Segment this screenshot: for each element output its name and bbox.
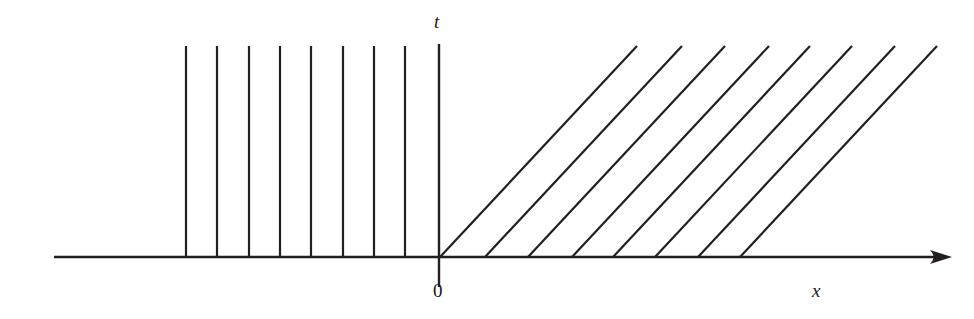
origin-label: 0 xyxy=(433,281,443,300)
diagonal-characteristic-line-5 xyxy=(613,46,810,257)
diagram-canvas xyxy=(0,0,974,319)
left-characteristics-group xyxy=(186,46,405,257)
diagonal-characteristic-line-2 xyxy=(485,46,682,257)
x-axis-label: x xyxy=(812,281,820,300)
t-axis-label: t xyxy=(434,12,439,31)
axes-group xyxy=(54,44,952,287)
right-characteristics-group xyxy=(440,46,937,257)
diagonal-characteristic-line-4 xyxy=(572,46,769,257)
diagonal-characteristic-line-3 xyxy=(528,46,725,257)
diagonal-characteristic-line-1 xyxy=(440,46,637,257)
diagonal-characteristic-line-6 xyxy=(655,46,852,257)
diagonal-characteristic-line-8 xyxy=(740,46,937,257)
characteristics-diagram-figure: t x 0 xyxy=(0,0,974,319)
diagonal-characteristic-line-7 xyxy=(698,46,895,257)
